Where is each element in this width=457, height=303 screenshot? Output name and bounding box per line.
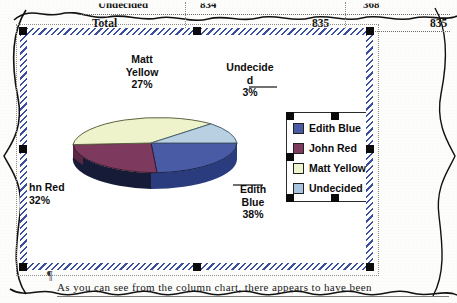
chart-plot-area[interactable]: Matt Yellow 27% Undecide d 3% hn Red 32%…	[27, 35, 366, 263]
legend-swatch-matt-yellow	[293, 163, 304, 174]
legend-swatch-john-red	[293, 143, 304, 154]
chart-object[interactable]: Matt Yellow 27% Undecide d 3% hn Red 32%…	[20, 28, 373, 270]
legend-label-edith-blue: Edith Blue	[309, 122, 361, 134]
resize-handle-bottom-center[interactable]	[193, 263, 201, 271]
legend-label-matt-yellow: Matt Yellow	[309, 162, 366, 174]
resize-handle-top-center[interactable]	[193, 27, 201, 35]
legend-item-matt-yellow[interactable]: Matt Yellow	[293, 158, 366, 178]
scanned-page: Undecided 834 368 Total 835 835 Matt Yel…	[0, 0, 457, 303]
legend-item-edith-blue[interactable]: Edith Blue	[293, 118, 366, 138]
legend-label-john-red: John Red	[309, 142, 357, 154]
legend-item-john-red[interactable]: John Red	[293, 138, 366, 158]
pie-chart-svg[interactable]	[61, 107, 241, 193]
resize-handle-middle-right[interactable]	[366, 145, 374, 153]
resize-handle-middle-left[interactable]	[19, 145, 27, 153]
legend-handle-bottom-center[interactable]	[331, 194, 339, 202]
legend-swatch-undecided	[293, 183, 304, 194]
legend-items: Edith Blue John Red Matt Yellow Undecide…	[293, 118, 366, 198]
text-underline	[57, 296, 449, 297]
legend-handle-middle-left[interactable]	[286, 153, 294, 161]
legend-handle-top-center[interactable]	[331, 112, 339, 120]
resize-handle-bottom-left[interactable]	[19, 263, 27, 271]
table-cell-undecided: Undecided	[98, 0, 148, 10]
legend-item-undecided[interactable]: Undecided	[293, 178, 366, 198]
legend-swatch-edith-blue	[293, 123, 304, 134]
legend-handle-bottom-left[interactable]	[286, 194, 294, 202]
resize-handle-bottom-right[interactable]	[366, 263, 374, 271]
body-paragraph: As you can see from the column chart, th…	[57, 281, 447, 293]
table-cell-value-2: 368	[363, 0, 380, 10]
pie-chart-3d[interactable]	[61, 107, 241, 193]
paragraph-mark: ¶	[47, 268, 52, 283]
legend-label-undecided: Undecided	[309, 182, 363, 194]
chart-legend[interactable]: Edith Blue John Red Matt Yellow Undecide…	[286, 112, 366, 202]
resize-handle-top-right[interactable]	[366, 27, 374, 35]
table-cell-value-1: 834	[200, 0, 217, 10]
legend-handle-top-left[interactable]	[286, 112, 294, 120]
table-cell-total-value-2: 835	[430, 17, 447, 29]
resize-handle-top-left[interactable]	[19, 27, 27, 35]
page-curl-right	[431, 6, 457, 298]
